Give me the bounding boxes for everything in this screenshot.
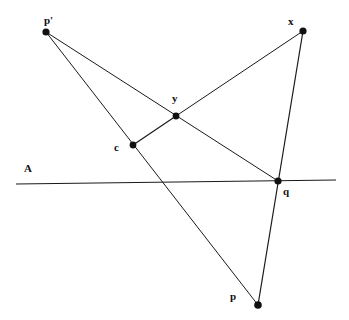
line-a <box>16 180 336 184</box>
point-dot-y <box>173 113 180 120</box>
point-dot-p <box>254 301 262 309</box>
point-label-p-prime: p' <box>44 15 53 26</box>
diagram-canvas <box>0 0 349 320</box>
point-label-c: c <box>114 142 119 153</box>
line-label-a: A <box>24 163 32 174</box>
point-dot-p-prime <box>42 28 49 35</box>
point-dot-x <box>299 27 306 34</box>
segment-x-p <box>258 31 303 305</box>
point-dot-c <box>130 142 137 149</box>
point-label-p: p <box>230 291 236 302</box>
point-label-x: x <box>288 16 294 27</box>
point-label-q: q <box>283 186 289 197</box>
point-label-y: y <box>172 93 178 104</box>
segment-x-y <box>176 31 303 116</box>
segment-c-y <box>133 116 176 145</box>
geometry-diagram: p' x y c q p A <box>0 0 349 320</box>
segment-pprime-p <box>46 32 258 305</box>
point-dot-q <box>274 177 281 184</box>
segment-pprime-q <box>46 32 278 181</box>
